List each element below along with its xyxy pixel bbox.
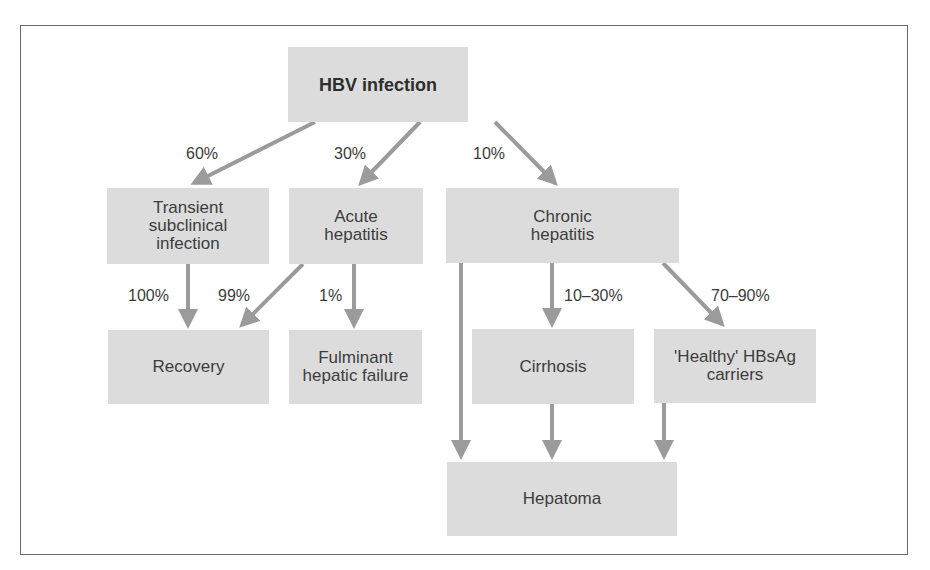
node-label: Fulminant hepatic failure: [303, 349, 409, 385]
edge-label-transient-recovery: 100%: [128, 287, 169, 305]
node-label: Acute hepatitis: [324, 208, 387, 244]
edge-label-chronic-cirrhosis: 10–30%: [564, 287, 623, 305]
node-recovery: Recovery: [108, 330, 269, 404]
node-label: Recovery: [153, 358, 225, 376]
node-cirrhosis: Cirrhosis: [472, 329, 634, 404]
arrow-hbv-acute: [361, 122, 420, 183]
node-acute-hepatitis: Acute hepatitis: [289, 188, 423, 264]
node-hepatoma: Hepatoma: [447, 462, 677, 536]
edge-label-chronic-carriers: 70–90%: [711, 287, 770, 305]
edge-label-hbv-chronic: 10%: [473, 145, 505, 163]
node-chronic-hepatitis: Chronic hepatitis: [446, 188, 679, 263]
node-label: Chronic hepatitis: [531, 208, 594, 244]
node-label: 'Healthy' HBsAg carriers: [674, 348, 796, 384]
node-label: Transient subclinical infection: [149, 199, 227, 253]
node-fulminant-hepatic-failure: Fulminant hepatic failure: [289, 330, 422, 404]
arrow-acute-recovery: [242, 264, 303, 325]
edge-label-hbv-transient: 60%: [186, 145, 218, 163]
edge-label-acute-recovery: 99%: [218, 287, 250, 305]
edge-label-hbv-acute: 30%: [334, 145, 366, 163]
node-label: Cirrhosis: [519, 358, 586, 376]
node-healthy-hbsag-carriers: 'Healthy' HBsAg carriers: [654, 329, 816, 403]
node-label: HBV infection: [319, 76, 437, 94]
node-label: Hepatoma: [523, 490, 601, 508]
node-hbv-infection: HBV infection: [288, 47, 468, 122]
node-transient-subclinical-infection: Transient subclinical infection: [107, 188, 269, 264]
edge-label-acute-fulminant: 1%: [319, 287, 342, 305]
